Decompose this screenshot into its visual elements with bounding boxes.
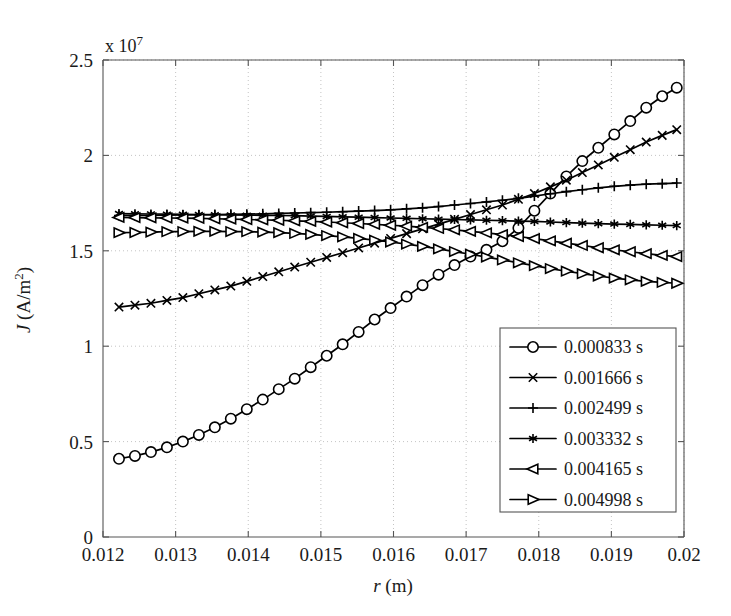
x-tick-labels: 0.0120.0130.0140.0150.0160.0170.0180.019… — [82, 544, 701, 565]
marker-circle — [433, 269, 443, 279]
y-tick-label: 2 — [84, 145, 94, 166]
marker-circle — [353, 327, 363, 337]
marker-circle — [114, 454, 124, 464]
marker-circle — [306, 362, 316, 372]
marker-circle — [417, 280, 427, 290]
marker-circle — [178, 436, 188, 446]
marker-circle — [529, 206, 539, 216]
marker-circle — [401, 291, 411, 301]
legend-label: 0.000833 s — [564, 337, 643, 357]
marker-circle — [321, 351, 331, 361]
marker-circle — [672, 82, 682, 92]
x-tick-label: 0.013 — [154, 544, 197, 565]
x-tick-label: 0.015 — [300, 544, 343, 565]
marker-circle — [337, 339, 347, 349]
marker-circle — [593, 143, 603, 153]
legend[interactable]: 0.000833 s0.001666 s0.002499 s0.003332 s… — [500, 328, 676, 512]
chart-background — [0, 0, 731, 616]
y-tick-label: 0 — [84, 527, 94, 548]
figure-container: 0.0120.0130.0140.0150.0160.0170.0180.019… — [0, 0, 731, 616]
marker-circle — [385, 303, 395, 313]
x-tick-label: 0.017 — [445, 544, 488, 565]
x-axis-title: r (m) — [373, 575, 413, 597]
legend-label: 0.003332 s — [564, 429, 643, 449]
y-tick-label: 2.5 — [69, 50, 93, 71]
legend-label: 0.004165 s — [564, 459, 643, 479]
marker-circle — [290, 373, 300, 383]
marker-circle — [130, 451, 140, 461]
marker-circle — [625, 116, 635, 126]
x-tick-label: 0.02 — [667, 544, 700, 565]
marker-circle — [242, 404, 252, 414]
line-chart: 0.0120.0130.0140.0150.0160.0170.0180.019… — [0, 0, 731, 616]
marker-circle — [369, 314, 379, 324]
marker-circle — [641, 103, 651, 113]
legend-label: 0.001666 s — [564, 368, 643, 388]
y-tick-label: 1.5 — [69, 241, 93, 262]
x-tick-label: 0.018 — [517, 544, 560, 565]
x-tick-label: 0.019 — [590, 544, 633, 565]
marker-circle — [657, 91, 667, 101]
marker-circle — [162, 442, 172, 452]
marker-circle — [274, 384, 284, 394]
marker-circle — [528, 342, 538, 352]
marker-circle — [609, 129, 619, 139]
y-tick-label: 0.5 — [69, 432, 93, 453]
legend-label: 0.002499 s — [564, 398, 643, 418]
marker-circle — [258, 394, 268, 404]
marker-circle — [194, 430, 204, 440]
marker-circle — [577, 156, 587, 166]
x-tick-label: 0.016 — [372, 544, 415, 565]
marker-circle — [210, 422, 220, 432]
marker-circle — [226, 414, 236, 424]
marker-circle — [449, 260, 459, 270]
legend-label: 0.004998 s — [564, 490, 643, 510]
x-tick-label: 0.014 — [227, 544, 270, 565]
marker-circle — [146, 447, 156, 457]
y-tick-label: 1 — [84, 336, 94, 357]
